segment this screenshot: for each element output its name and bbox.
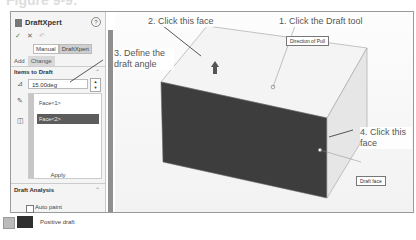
tab-add[interactable]: Add xyxy=(11,56,28,66)
items-to-draft-header: Items to Draft xyxy=(14,69,53,75)
callout-step-4: 4. Click this face xyxy=(360,127,412,149)
figure-title: Figure 9-9: xyxy=(6,0,78,8)
mode-switch: Manual DraftXpert xyxy=(33,44,92,54)
list-color-bar xyxy=(29,94,34,178)
draft-angle-icon: ⊿ xyxy=(16,80,24,88)
tab-bar: Add Change xyxy=(11,56,105,67)
list-item-selected[interactable]: Face<2> xyxy=(37,114,99,124)
draft-feature-icon xyxy=(15,19,22,27)
color-settings-button[interactable] xyxy=(3,217,15,229)
collapse-icon[interactable]: ⌃ xyxy=(95,68,100,75)
action-row: ✓ ✕ ↶ xyxy=(15,32,45,40)
solidworks-window: DraftXpert ? ✓ ✕ ↶ Manual DraftXpert Add… xyxy=(10,11,414,213)
callout-step-1: 1. Click the Draft tool xyxy=(279,16,363,27)
list-item[interactable]: Face<1> xyxy=(37,98,99,108)
help-icon[interactable]: ? xyxy=(91,17,101,27)
mode-draftxpert[interactable]: DraftXpert xyxy=(59,44,92,54)
draft-face-label: Draft face xyxy=(360,178,382,184)
angle-spinner[interactable]: ▲▼ xyxy=(90,78,101,92)
direction-of-pull-tag[interactable]: Direction of Pull xyxy=(286,36,329,46)
draft-analysis-header: Draft Analysis xyxy=(14,187,54,193)
mode-manual[interactable]: Manual xyxy=(33,44,59,54)
divider xyxy=(11,183,105,184)
apply-button[interactable]: Apply xyxy=(11,172,105,178)
faces-list[interactable]: Face<1> Face<2> xyxy=(28,93,102,179)
positive-draft-label: Positive draft xyxy=(40,219,75,225)
panel-title: DraftXpert xyxy=(15,18,62,27)
direction-of-pull-label: Direction of Pull xyxy=(290,38,325,44)
auto-paint-label: Auto paint xyxy=(35,204,62,210)
draft-face-tag[interactable]: Draft face xyxy=(356,176,386,186)
face-selection-icon: ✎ xyxy=(16,97,24,105)
collapse-icon[interactable]: ⌃ xyxy=(95,186,100,193)
panel-title-label: DraftXpert xyxy=(25,18,62,27)
callout-step-2: 2. Click this face xyxy=(148,16,214,27)
positive-draft-swatch[interactable] xyxy=(17,216,33,228)
panel-scrollbar[interactable] xyxy=(108,30,113,212)
draft-angle-input[interactable]: 15.00deg xyxy=(28,79,88,89)
tab-change[interactable]: Change xyxy=(28,56,55,66)
undo-icon[interactable]: ↶ xyxy=(39,32,45,40)
auto-paint-checkbox[interactable] xyxy=(26,205,34,213)
draftxpert-panel: DraftXpert ? ✓ ✕ ↶ Manual DraftXpert Add… xyxy=(11,12,106,212)
neutral-plane-icon: ◫ xyxy=(16,117,24,125)
cancel-icon[interactable]: ✕ xyxy=(27,32,33,40)
callout-step-3: 3. Define the draft angle xyxy=(114,48,174,70)
ok-icon[interactable]: ✓ xyxy=(15,32,21,40)
